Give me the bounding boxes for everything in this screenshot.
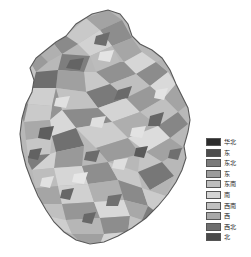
legend-swatch xyxy=(206,138,221,146)
legend-swatch xyxy=(206,170,221,178)
legend-label: 东 xyxy=(224,148,230,157)
legend-swatch xyxy=(206,202,221,210)
legend-swatch xyxy=(206,159,221,167)
legend-swatch xyxy=(206,149,221,157)
legend-swatch xyxy=(206,233,221,241)
legend-label: 东南 xyxy=(224,180,236,189)
legend-item[interactable]: 西 xyxy=(206,212,251,220)
legend-label: 东 xyxy=(224,169,230,178)
legend-item[interactable]: 东南 xyxy=(206,180,251,188)
legend-label: 华北 xyxy=(224,137,236,146)
legend-swatch xyxy=(206,191,221,199)
legend-item[interactable]: 东 xyxy=(206,170,251,178)
figure-root: 华北 东 东北 东 东南 南 西南 西 xyxy=(0,0,251,257)
map-fill-group xyxy=(0,0,200,257)
legend-swatch xyxy=(206,223,221,231)
legend-item[interactable]: 华北 xyxy=(206,138,251,146)
region-legend: 华北 东 东北 东 东南 南 西南 西 xyxy=(206,138,251,250)
legend-label: 西 xyxy=(224,211,230,220)
legend-label: 南 xyxy=(224,190,230,199)
legend-label: 西南 xyxy=(224,201,236,210)
legend-item[interactable]: 北 xyxy=(206,233,251,241)
legend-item[interactable]: 东 xyxy=(206,149,251,157)
legend-swatch xyxy=(206,180,221,188)
legend-item[interactable]: 东北 xyxy=(206,159,251,167)
legend-label: 东北 xyxy=(224,158,236,167)
china-regions-map xyxy=(0,0,200,257)
legend-label: 北 xyxy=(224,233,230,242)
legend-swatch xyxy=(206,212,221,220)
legend-item[interactable]: 西南 xyxy=(206,202,251,210)
legend-item[interactable]: 南 xyxy=(206,191,251,199)
legend-item[interactable]: 西北 xyxy=(206,223,251,231)
legend-label: 西北 xyxy=(224,222,236,231)
map-panel xyxy=(0,0,200,257)
